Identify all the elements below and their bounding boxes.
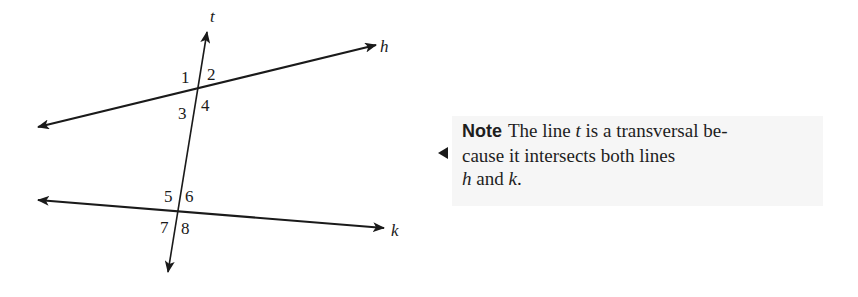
angle-label-3: 3 [178, 104, 187, 123]
note-text-part: is a transversal be- [581, 120, 728, 141]
note-var-h: h [462, 168, 472, 189]
line-label-t: t [210, 7, 216, 26]
angle-label-6: 6 [185, 187, 194, 206]
note-text: NoteThe line t is a transversal be- caus… [462, 119, 822, 191]
angle-label-1: 1 [181, 68, 190, 87]
note-text-part: and [472, 168, 509, 189]
angle-label-5: 5 [164, 187, 173, 206]
note-text-part: . [517, 168, 522, 189]
line-label-k: k [391, 221, 399, 240]
angle-label-2: 2 [207, 65, 216, 84]
note-text-part: The line [508, 120, 576, 141]
note-var-k: k [508, 168, 516, 189]
line-label-h: h [380, 37, 389, 56]
pointer-triangle-icon [438, 147, 448, 159]
note-text-line-2: cause it intersects both lines [462, 145, 675, 166]
angle-label-8: 8 [181, 219, 190, 238]
line-k [38, 200, 384, 228]
note-heading: Note [462, 121, 502, 141]
angle-label-7: 7 [160, 218, 169, 237]
angle-label-4: 4 [201, 96, 210, 115]
